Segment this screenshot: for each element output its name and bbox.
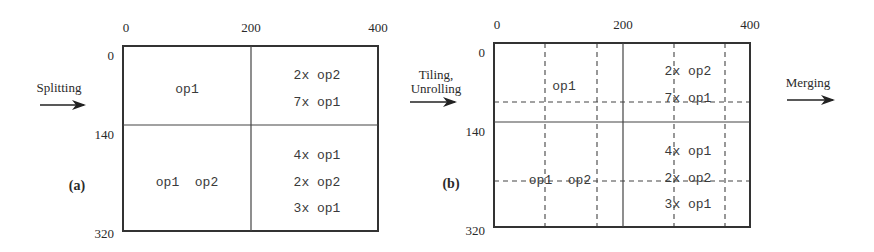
cell-bottom-left-op: op1 op2 bbox=[529, 173, 591, 188]
cell-bottom-right-op: 3x op1 bbox=[294, 201, 341, 216]
y-tick-320: 320 bbox=[95, 226, 115, 241]
cell-top-left-op: op1 bbox=[175, 82, 199, 97]
y-tick-0: 0 bbox=[108, 48, 115, 63]
x-tick-400: 400 bbox=[368, 20, 388, 35]
cell-bottom-right-op: 3x op1 bbox=[665, 197, 712, 212]
cell-top-right-op: 7x op1 bbox=[294, 95, 341, 110]
x-tick-0: 0 bbox=[494, 17, 501, 32]
step-label-tiling: Tiling, bbox=[419, 67, 454, 82]
step-tiling-unrolling: Tiling, Unrolling bbox=[410, 67, 462, 102]
x-tick-0: 0 bbox=[123, 20, 130, 35]
cell-bottom-right-op: 2x op2 bbox=[294, 175, 341, 190]
cell-bottom-right-op: 4x op1 bbox=[665, 144, 712, 159]
step-label-splitting: Splitting bbox=[37, 80, 82, 95]
cell-bottom-right-op: 4x op1 bbox=[294, 148, 341, 163]
y-tick-140: 140 bbox=[466, 124, 486, 139]
y-tick-320: 320 bbox=[466, 223, 486, 238]
panel-b: 0 200 400 0 140 320 (b) op1 2x op2 7x op… bbox=[442, 17, 759, 238]
panel-caption-a: (a) bbox=[69, 178, 86, 194]
cell-top-right-op: 7x op1 bbox=[665, 91, 712, 106]
cell-bottom-left-op: op1 op2 bbox=[156, 175, 218, 190]
x-tick-400: 400 bbox=[740, 17, 760, 32]
cell-top-right-op: 2x op2 bbox=[294, 68, 341, 83]
x-tick-200: 200 bbox=[241, 20, 261, 35]
step-merging: Merging bbox=[786, 75, 833, 100]
x-tick-200: 200 bbox=[613, 17, 633, 32]
y-tick-0: 0 bbox=[479, 45, 486, 60]
cell-top-left-op: op1 bbox=[552, 79, 576, 94]
domain-box bbox=[494, 43, 750, 227]
panel-caption-b: (b) bbox=[442, 176, 459, 192]
y-tick-140: 140 bbox=[95, 127, 115, 142]
step-label-unrolling: Unrolling bbox=[411, 81, 462, 96]
step-label-merging: Merging bbox=[786, 75, 831, 90]
step-splitting: Splitting bbox=[37, 80, 84, 105]
cell-bottom-right-op: 2x op2 bbox=[665, 171, 712, 186]
panel-a: 0 200 400 0 140 320 (a) op1 2x op2 7x op… bbox=[69, 20, 388, 241]
transformation-diagram: Splitting 0 200 400 0 140 320 (a) op1 2x… bbox=[0, 0, 874, 252]
cell-top-right-op: 2x op2 bbox=[665, 64, 712, 79]
